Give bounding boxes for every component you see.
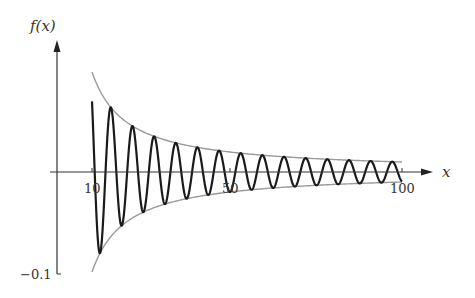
y-axis-arrow-icon	[54, 40, 61, 52]
x-tick-label-100: 100	[390, 181, 415, 196]
x-axis-label: x	[442, 163, 451, 181]
y-tick-label-neg01: −0.1	[20, 267, 52, 282]
x-axis-arrow-icon	[421, 169, 433, 176]
upper-envelope	[92, 72, 402, 162]
chart: f(x) x 10 50 100 −0.1	[0, 0, 475, 298]
x-tick-label-10: 10	[84, 181, 101, 196]
x-tick-label-50: 50	[222, 181, 239, 196]
lower-envelope	[92, 182, 402, 272]
y-axis-label: f(x)	[29, 17, 56, 35]
function-curve	[92, 101, 402, 253]
oscillation-line	[92, 101, 402, 253]
